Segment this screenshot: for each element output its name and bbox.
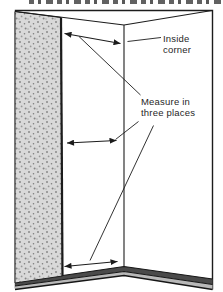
- measure-arrow-bottom: [65, 262, 118, 267]
- measure-pointer-line-bottom: [90, 126, 154, 261]
- measure-pointer-line-middle: [116, 122, 139, 140]
- panel-texture: [15, 12, 63, 284]
- measure-arrow-top: [65, 34, 121, 44]
- inside-corner-label: Inside corner: [163, 33, 191, 55]
- wall-measuring-illustration: Inside corner Measure in three places: [0, 0, 223, 292]
- measure-arrow-middle: [67, 141, 117, 144]
- measure-in-three-places-label: Measure in three places: [141, 96, 195, 118]
- inside-corner-pointer-line: [128, 38, 162, 42]
- measure-pointer-line-top: [79, 37, 141, 96]
- right-wall-top-edge: [124, 11, 212, 26]
- panel-right-edge: [61, 18, 63, 277]
